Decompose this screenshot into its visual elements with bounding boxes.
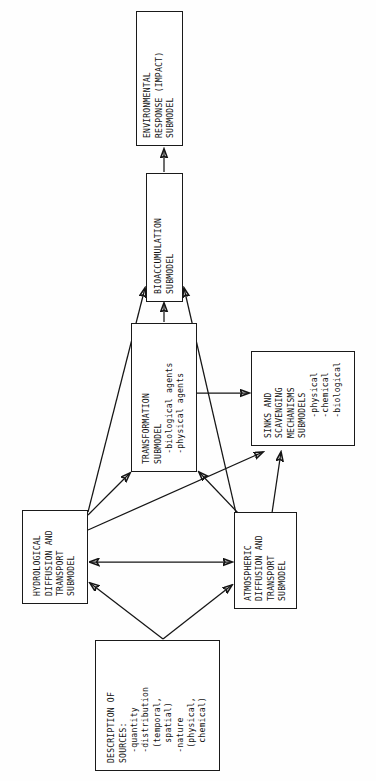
- hydrological-diffusion-and-transport-submodel-box[interactable]: HYDROLOGICAL DIFFUSION AND TRANSPORT SUB…: [22, 510, 88, 604]
- hydrological-submodel-label: HYDROLOGICAL DIFFUSION AND TRANSPORT SUB…: [32, 530, 78, 596]
- environmental-response-submodel-box[interactable]: ENVIRONMENTAL RESPONSE (IMPACT) SUBMODEL: [136, 11, 183, 146]
- transformation-submodel-label: TRANSFORMATION SUBMODEL -biological agen…: [141, 363, 187, 464]
- description-of-sources-label: DESCRIPTION OF SOURCES: -quantity -distr…: [106, 687, 209, 763]
- description-of-sources-box[interactable]: DESCRIPTION OF SOURCES: -quantity -distr…: [95, 640, 220, 771]
- atmospheric-submodel-label: ATMOSPHERIC DIFFUSION AND TRANSPORT SUBM…: [243, 535, 289, 601]
- sinks-and-scavenging-mechanisms-submodels-label: SINKS AND SCAVENGING MECHANISMS SUBMODEL…: [263, 362, 343, 438]
- edge-sources-to-hydrological: [90, 583, 163, 639]
- bioaccumulation-submodel-box[interactable]: BIOACCUMULATION SUBMODEL: [146, 173, 183, 302]
- atmospheric-diffusion-and-transport-submodel-box[interactable]: ATMOSPHERIC DIFFUSION AND TRANSPORT SUBM…: [234, 512, 297, 609]
- edge-sources-to-atmospheric: [163, 585, 232, 639]
- sinks-and-scavenging-mechanisms-submodels-box[interactable]: SINKS AND SCAVENGING MECHANISMS SUBMODEL…: [251, 351, 355, 446]
- edge-atmospheric-to-sinks: [272, 452, 281, 513]
- bioaccumulation-submodel-label: BIOACCUMULATION SUBMODEL: [153, 218, 176, 294]
- edge-hydrological-to-transformation: [88, 473, 130, 515]
- transformation-submodel-box[interactable]: TRANSFORMATION SUBMODEL -biological agen…: [131, 323, 197, 472]
- diagram-canvas: ENVIRONMENTAL RESPONSE (IMPACT) SUBMODEL…: [0, 0, 376, 781]
- edge-atmospheric-to-transformation: [199, 472, 239, 514]
- environmental-response-submodel-label: ENVIRONMENTAL RESPONSE (IMPACT) SUBMODEL: [142, 52, 176, 138]
